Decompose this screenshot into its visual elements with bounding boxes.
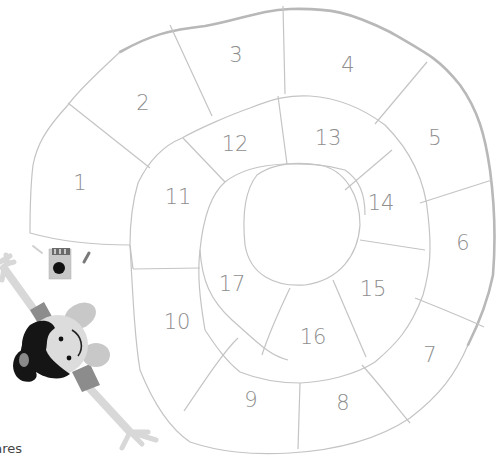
- square-11: 11: [165, 185, 192, 209]
- square-2: 2: [136, 91, 149, 115]
- square-7: 7: [423, 343, 436, 367]
- square-8: 8: [336, 391, 349, 415]
- square-4: 4: [341, 53, 354, 77]
- square-12: 12: [222, 132, 249, 156]
- divider-6-7: [415, 298, 484, 327]
- square-9: 9: [244, 388, 257, 412]
- square-6: 6: [456, 231, 469, 255]
- square-numbers: 1 2 3 4 5 6 7 8 9 10 11 12 13 14 15 16 1…: [73, 43, 469, 415]
- square-1: 1: [73, 171, 86, 195]
- divider-4-5: [375, 62, 427, 124]
- divider-3-4: [283, 6, 285, 94]
- square-15: 15: [360, 277, 387, 301]
- square-16: 16: [300, 325, 327, 349]
- divider-8-9: [298, 383, 300, 449]
- square-3: 3: [229, 43, 242, 67]
- divider-5-6: [420, 180, 492, 203]
- caption-text: uares: [0, 441, 22, 456]
- square-10: 10: [164, 310, 191, 334]
- divider-7-8: [362, 365, 410, 423]
- die-icon: [33, 246, 89, 279]
- divider-12-13: [278, 96, 287, 164]
- divider-2-3: [170, 25, 212, 116]
- divider-13-14: [345, 150, 392, 190]
- divider-10-11: [133, 268, 200, 269]
- board-outer-border-left: [30, 52, 130, 245]
- spiral-game-board: 1 2 3 4 5 6 7 8 9 10 11 12 13 14 15 16 1…: [0, 0, 498, 457]
- divider-14-15: [360, 240, 425, 250]
- square-14: 14: [368, 191, 395, 215]
- board-outer-border: [120, 9, 495, 345]
- inner-ring-lower: [200, 250, 288, 360]
- divider-16-17: [262, 288, 290, 355]
- divider-11-12: [183, 138, 225, 182]
- square-13: 13: [315, 126, 342, 150]
- square-5: 5: [428, 126, 441, 150]
- middle-ring-boundary: [130, 96, 430, 383]
- board-center: [244, 163, 360, 285]
- square-17: 17: [219, 272, 246, 296]
- divider-9-10: [184, 338, 238, 411]
